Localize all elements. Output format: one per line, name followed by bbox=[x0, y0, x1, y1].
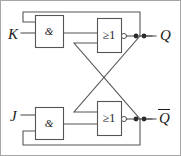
gate-and-bottom-symbol: & bbox=[35, 118, 63, 129]
gate-and-top-symbol: & bbox=[35, 26, 63, 37]
junction-dot-qbar-right bbox=[142, 117, 147, 122]
junction-dot-qbar-left bbox=[134, 117, 139, 122]
logic-circuit-svg bbox=[0, 0, 181, 156]
gate-or-bottom-symbol: ≥1 bbox=[97, 112, 121, 124]
input-label-k: K bbox=[8, 27, 18, 42]
output-label-q: Q bbox=[160, 28, 171, 43]
diagram-canvas: & ≥1 & ≥1 K J Q Q bbox=[0, 0, 181, 156]
invert-bubble-bottom bbox=[121, 116, 126, 121]
diagram-frame bbox=[1, 1, 181, 156]
gate-or-top-symbol: ≥1 bbox=[97, 29, 121, 41]
output-label-qbar: Q bbox=[159, 111, 170, 126]
junction-dot-q-right bbox=[142, 34, 147, 39]
junction-dot-q-left bbox=[134, 34, 139, 39]
input-label-j: J bbox=[10, 109, 17, 124]
output-label-qbar-text: Q bbox=[159, 111, 170, 126]
invert-bubble-top bbox=[121, 33, 126, 38]
